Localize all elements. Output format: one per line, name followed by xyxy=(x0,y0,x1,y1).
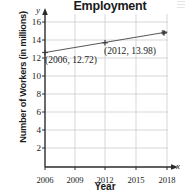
y-tick-6: 6 xyxy=(22,107,41,117)
x-tick-label: 2015 xyxy=(127,175,144,185)
y-tick-10: 10 xyxy=(22,71,41,81)
annotation-point-2012: (2012, 13.98) xyxy=(104,45,156,56)
x-tick-label: 2018 xyxy=(158,175,175,185)
x-tick-2009: 2009 xyxy=(60,169,90,187)
x-tick-label: 2006 xyxy=(36,175,53,185)
y-tick-label: 6 xyxy=(22,107,41,117)
y-tick-label: 16 xyxy=(22,17,41,27)
y-tick-2: 2 xyxy=(22,143,41,153)
y-tick-14: 14 xyxy=(22,35,41,45)
x-tick-2012: 2012 xyxy=(90,169,120,187)
vertical-gridlines xyxy=(75,14,167,167)
employment-line-chart: Employment Number of Workers (in million… xyxy=(0,0,186,195)
y-tick-label: 2 xyxy=(22,143,41,153)
y-tick-label: 4 xyxy=(22,125,41,135)
annotation-point-2006: (2006, 12.72) xyxy=(45,54,97,65)
y-tick-label: 14 xyxy=(22,35,41,45)
x-tick-label: 2009 xyxy=(66,175,83,185)
x-tick-label: 2012 xyxy=(96,175,113,185)
x-tick-2015: 2015 xyxy=(121,169,151,187)
y-tick-label: 10 xyxy=(22,71,41,81)
x-tick-2006: 2006 xyxy=(30,169,60,187)
y-axis-line xyxy=(42,8,48,167)
horizontal-gridlines xyxy=(45,22,168,148)
y-tick-label: 8 xyxy=(22,89,41,99)
y-tick-16: 16 xyxy=(22,17,41,27)
y-tick-label: 12 xyxy=(22,53,41,63)
y-tick-12: 12 xyxy=(22,53,41,63)
y-tick-8: 8 xyxy=(22,89,41,99)
y-tick-4: 4 xyxy=(22,125,41,135)
x-tick-2018: 2018 xyxy=(152,169,182,187)
